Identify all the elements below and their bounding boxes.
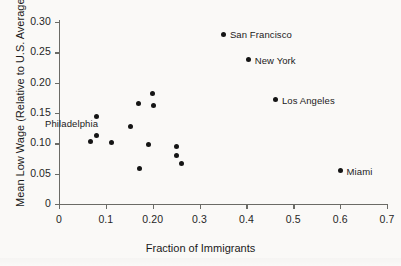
y-axis-title: Mean Low Wage (Relative to U.S. Average) bbox=[14, 0, 26, 207]
y-tick-mark bbox=[55, 83, 60, 84]
data-point-label: San Francisco bbox=[230, 29, 292, 40]
y-tick-mark bbox=[55, 113, 60, 114]
data-point bbox=[109, 140, 114, 145]
x-tick-label: 0.6 bbox=[320, 213, 360, 225]
x-axis-line bbox=[59, 204, 387, 205]
data-point-label: Philadelphia bbox=[45, 118, 98, 129]
x-tick-label: 0.1 bbox=[86, 213, 126, 225]
data-point-label: Los Angeles bbox=[282, 94, 335, 105]
data-point-labeled bbox=[94, 133, 99, 138]
x-tick-label: 0.4 bbox=[226, 213, 266, 225]
y-tick-mark bbox=[55, 52, 60, 53]
x-tick-label: 0 bbox=[39, 213, 79, 225]
data-point bbox=[137, 166, 142, 171]
data-point bbox=[88, 139, 93, 144]
x-tick-mark bbox=[59, 204, 60, 209]
scan-edge-artifact bbox=[0, 258, 401, 266]
data-point-labeled bbox=[221, 32, 226, 37]
x-tick-mark bbox=[293, 204, 294, 209]
x-tick-label: 0.7 bbox=[367, 213, 401, 225]
data-point-labeled bbox=[273, 97, 278, 102]
y-tick-mark bbox=[55, 174, 60, 175]
x-axis-title: Fraction of Immigrants bbox=[0, 242, 401, 254]
data-point bbox=[136, 101, 141, 106]
data-point-label: New York bbox=[255, 54, 296, 65]
x-tick-mark bbox=[153, 204, 154, 209]
x-tick-mark bbox=[200, 204, 201, 209]
x-tick-label: 0.5 bbox=[273, 213, 313, 225]
data-point bbox=[174, 153, 179, 158]
data-point bbox=[179, 161, 184, 166]
data-point bbox=[150, 91, 155, 96]
x-tick-mark bbox=[340, 204, 341, 209]
scatter-plot-figure: 00.050.100.150.200.250.30 00.10.200.30.4… bbox=[0, 0, 401, 266]
data-point-labeled bbox=[338, 168, 343, 173]
x-tick-mark bbox=[106, 204, 107, 209]
data-point bbox=[94, 114, 99, 119]
data-point bbox=[151, 103, 156, 108]
data-point bbox=[146, 142, 151, 147]
data-point bbox=[174, 144, 179, 149]
data-point-labeled bbox=[246, 57, 251, 62]
x-tick-mark bbox=[246, 204, 247, 209]
data-point bbox=[128, 124, 133, 129]
y-tick-mark bbox=[55, 22, 60, 23]
x-tick-label: 0.3 bbox=[180, 213, 220, 225]
x-tick-mark bbox=[387, 204, 388, 209]
x-tick-label: 0.20 bbox=[133, 213, 173, 225]
data-point-label: Miami bbox=[347, 165, 373, 176]
y-tick-mark bbox=[55, 143, 60, 144]
